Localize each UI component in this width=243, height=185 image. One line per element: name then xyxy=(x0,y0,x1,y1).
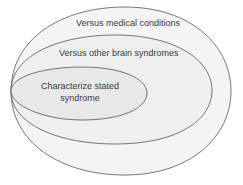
middle-label: Versus other brain syndromes xyxy=(59,48,179,58)
outer-label: Versus medical conditions xyxy=(76,18,181,28)
inner-label-line1: Characterize stated xyxy=(41,81,119,91)
nested-ellipse-diagram: Versus medical conditions Versus other b… xyxy=(0,0,243,185)
inner-label-line2: syndrome xyxy=(60,93,100,103)
